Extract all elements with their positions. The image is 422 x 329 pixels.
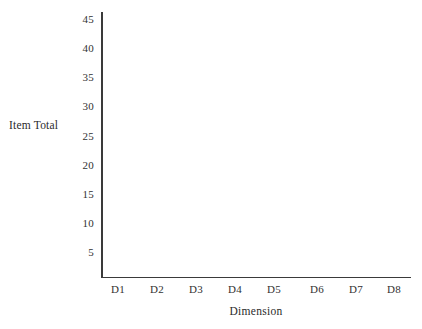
x-tick-label-d6: D6	[297, 283, 337, 295]
x-tick-label-d8: D8	[374, 283, 414, 295]
x-tick-label-d4: D4	[215, 283, 255, 295]
y-tick-label: 45	[68, 14, 94, 25]
y-tick-label: 40	[68, 43, 94, 54]
y-axis-tick-labels: 45 40 35 30 25 20 15 10 5	[68, 0, 94, 329]
chart-figure: 45 40 35 30 25 20 15 10 5 D1 D2 D3 D4 D5…	[0, 0, 422, 329]
y-tick-label: 5	[68, 247, 94, 258]
x-tick-label-d5: D5	[254, 283, 294, 295]
y-axis-title: Item Total	[9, 119, 71, 132]
x-tick-label-d1: D1	[98, 283, 138, 295]
y-tick-label: 20	[68, 160, 94, 171]
x-axis-line	[101, 277, 411, 279]
plot-area	[103, 12, 411, 276]
x-axis-tick-labels: D1 D2 D3 D4 D5 D6 D7 D8	[101, 283, 411, 297]
y-tick-label: 25	[68, 131, 94, 142]
y-axis-line	[101, 12, 103, 278]
x-tick-label-d2: D2	[137, 283, 177, 295]
x-tick-label-d7: D7	[336, 283, 376, 295]
y-tick-label: 35	[68, 72, 94, 83]
y-tick-label: 15	[68, 189, 94, 200]
y-tick-label: 10	[68, 218, 94, 229]
y-tick-label: 30	[68, 101, 94, 112]
x-tick-label-d3: D3	[176, 283, 216, 295]
x-axis-title: Dimension	[101, 305, 411, 318]
